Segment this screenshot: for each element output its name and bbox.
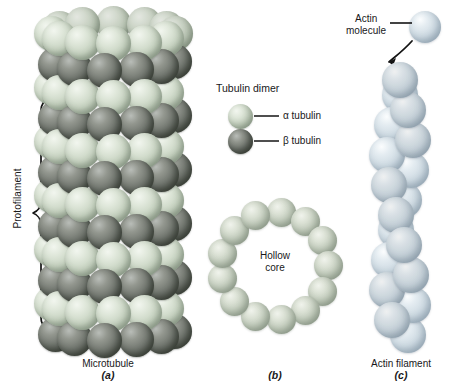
actin-subunit: [374, 302, 410, 338]
actin-subunit: [382, 62, 418, 98]
ring-tubulin-subunit: [267, 305, 296, 334]
alpha-tubulin-subunit: [65, 25, 100, 60]
panel-c-caption: Actin filament: [348, 358, 454, 370]
panel-c-letter: (c): [348, 370, 454, 382]
figure-canvas: Protofilament Microtubule (a) Tubulin di…: [0, 0, 457, 391]
actin-subunit: [395, 122, 431, 158]
beta-tubulin-subunit: [87, 323, 122, 358]
